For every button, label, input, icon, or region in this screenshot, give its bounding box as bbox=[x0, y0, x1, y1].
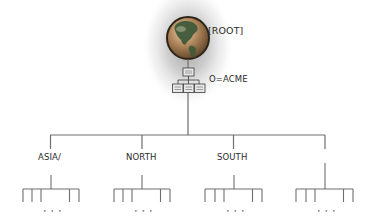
branch-label-north: NORTH bbox=[126, 152, 156, 162]
subtree-asia bbox=[23, 175, 79, 202]
ellipsis-unlabeled: • • • bbox=[317, 206, 336, 216]
branch-label-asia: ASIA/ bbox=[38, 152, 61, 162]
tree-graphics bbox=[0, 0, 372, 221]
branch-drops bbox=[51, 135, 326, 149]
globe-icon bbox=[167, 17, 209, 59]
root-label: [ROOT] bbox=[208, 26, 243, 36]
subtree-unlabeled bbox=[296, 163, 353, 202]
branch-label-south: SOUTH bbox=[217, 152, 247, 162]
directory-tree-diagram: [ROOT] O=ACME ASIA/ NORTH SOUTH • • • • … bbox=[0, 0, 372, 221]
ellipsis-asia: • • • bbox=[43, 206, 62, 216]
org-label: O=ACME bbox=[209, 74, 248, 84]
subtree-south bbox=[205, 175, 262, 202]
subtree-north bbox=[114, 175, 170, 202]
ellipsis-north: • • • bbox=[134, 206, 153, 216]
ellipsis-south: • • • bbox=[226, 206, 245, 216]
